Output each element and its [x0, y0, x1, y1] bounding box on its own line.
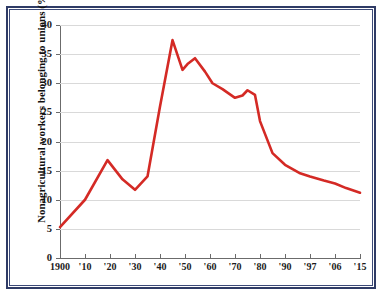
x-tick-mark: [360, 254, 361, 259]
y-tick-mark: [56, 142, 60, 143]
x-tick-mark: [60, 254, 61, 259]
y-tick-mark: [56, 171, 60, 172]
y-tick-mark: [56, 112, 60, 113]
y-axis-label: Nonagricultural workers belonging to uni…: [35, 0, 47, 223]
x-tick-mark: [335, 254, 336, 259]
gridline: [60, 200, 360, 201]
gridline: [60, 54, 360, 55]
gridline: [60, 142, 360, 143]
x-tick-mark: [185, 254, 186, 259]
x-tick-mark: [235, 254, 236, 259]
x-tick-mark: [85, 254, 86, 259]
x-tick-mark: [160, 254, 161, 259]
y-tick-mark: [56, 83, 60, 84]
gridline: [60, 171, 360, 172]
y-tick-mark: [56, 200, 60, 201]
gridline: [60, 229, 360, 230]
y-tick-mark: [56, 54, 60, 55]
chart-figure: 0510152025303540 1900'10'20'30'40'50'60'…: [0, 0, 382, 295]
x-tick-mark: [260, 254, 261, 259]
y-tick-mark: [56, 25, 60, 26]
gridline: [60, 25, 360, 26]
gridline: [60, 83, 360, 84]
x-tick-mark: [210, 254, 211, 259]
x-tick-label: '15: [340, 262, 380, 272]
x-tick-mark: [135, 254, 136, 259]
y-tick-mark: [56, 229, 60, 230]
gridline: [60, 112, 360, 113]
x-tick-mark: [310, 254, 311, 259]
x-tick-mark: [110, 254, 111, 259]
y-tick-label: 5: [12, 224, 52, 235]
x-tick-mark: [285, 254, 286, 259]
